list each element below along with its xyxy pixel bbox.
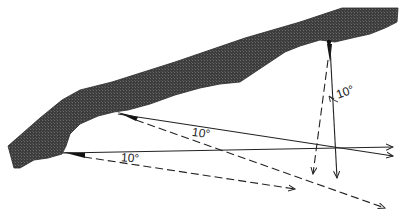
overhang-diagram: 10° 10° 10° bbox=[0, 0, 404, 214]
top-dashed-vector bbox=[313, 60, 328, 174]
angle-label-middle: 10° bbox=[191, 126, 211, 140]
middle-dashed-vector bbox=[136, 120, 385, 208]
angle-label-bottom: 10° bbox=[121, 151, 140, 164]
bottom-dashed-vector bbox=[84, 157, 295, 189]
top-anchor-icon bbox=[327, 40, 331, 44]
top-solid-vector bbox=[330, 46, 337, 178]
diagram-canvas bbox=[0, 0, 404, 214]
